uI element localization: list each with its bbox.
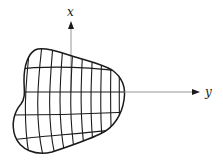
x-axis: x	[67, 5, 74, 92]
grid-line-vertical	[101, 45, 104, 160]
grid-line-vertical	[111, 45, 114, 160]
y-axis-label: y	[204, 85, 212, 99]
grid-line-vertical	[119, 45, 121, 160]
y-axis-arrowhead-icon	[192, 89, 200, 95]
diagram-canvas: x y	[0, 0, 223, 166]
region-grid	[10, 45, 130, 160]
y-axis: y	[124, 85, 212, 99]
grid-line-vertical	[71, 45, 76, 160]
x-axis-label: x	[67, 5, 74, 19]
grid-line-vertical	[50, 45, 56, 160]
grid-line-vertical	[81, 45, 86, 160]
grid-line-vertical	[38, 45, 44, 160]
grid-line-horizontal	[10, 128, 130, 140]
grid-line-horizontal	[10, 112, 130, 115]
grid-line-vertical	[60, 45, 66, 160]
x-axis-arrowhead-icon	[68, 21, 74, 29]
